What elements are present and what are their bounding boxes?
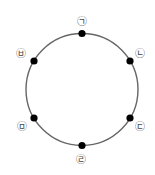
point-6: ㉥ bbox=[16, 48, 38, 65]
point-dot bbox=[30, 57, 37, 64]
main-circle bbox=[26, 34, 138, 146]
point-dot bbox=[30, 114, 37, 121]
point-label: ㉥ bbox=[16, 48, 26, 59]
circle-diagram: ㉠ ㉡ ㉢ ㉣ ㉤ ㉥ bbox=[0, 0, 155, 175]
point-2: ㉡ bbox=[126, 48, 145, 65]
point-1: ㉠ bbox=[77, 16, 87, 38]
point-label: ㉡ bbox=[135, 48, 145, 59]
point-dot bbox=[78, 142, 85, 149]
point-3: ㉢ bbox=[126, 114, 145, 131]
point-label: ㉠ bbox=[77, 16, 87, 27]
point-label: ㉣ bbox=[76, 154, 86, 165]
point-dot bbox=[78, 30, 85, 37]
point-dot bbox=[126, 114, 133, 121]
point-label: ㉢ bbox=[135, 121, 145, 132]
point-dot bbox=[126, 57, 133, 64]
point-5: ㉤ bbox=[17, 114, 38, 131]
point-label: ㉤ bbox=[17, 121, 27, 132]
